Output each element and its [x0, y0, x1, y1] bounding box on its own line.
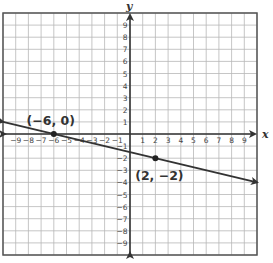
y-tick-label: −7	[116, 215, 127, 224]
y-tick-label: 6	[123, 57, 128, 66]
data-points: (−6, 0)(2, −2)	[27, 113, 184, 183]
data-point	[51, 131, 57, 137]
x-tick-label: −9	[10, 136, 21, 145]
y-tick-label: 1	[123, 118, 128, 127]
x-tick-label: 5	[191, 136, 196, 145]
coordinate-plane: −9−8−7−6−5−4−3−2−1123456789987654321−1−2…	[0, 0, 273, 263]
y-tick-label: −8	[116, 227, 127, 236]
point-label: (2, −2)	[135, 168, 183, 183]
y-tick-label: −4	[116, 178, 127, 187]
x-tick-label: 4	[178, 136, 183, 145]
y-tick-label: 8	[123, 33, 128, 42]
y-tick-label: 2	[123, 106, 128, 115]
y-tick-label: −2	[116, 154, 127, 163]
point-label: (−6, 0)	[27, 113, 75, 128]
y-tick-label: 3	[123, 94, 128, 103]
x-tick-label: −7	[36, 136, 47, 145]
x-axis-label: x	[261, 128, 269, 141]
x-tick-label: −2	[99, 136, 110, 145]
y-tick-label: 9	[123, 21, 128, 30]
y-tick-label: 5	[123, 70, 128, 79]
x-tick-label: 2	[153, 136, 158, 145]
y-tick-label: −5	[116, 191, 127, 200]
x-tick-label: 9	[242, 136, 247, 145]
x-tick-label: −6	[48, 136, 59, 145]
x-tick-label: −8	[23, 136, 34, 145]
y-tick-label: −6	[116, 203, 127, 212]
x-tick-label: 3	[166, 136, 171, 145]
x-tick-label: 7	[217, 136, 222, 145]
y-axis-label: y	[125, 0, 134, 13]
y-tick-label: 7	[123, 45, 128, 54]
y-tick-label: −9	[116, 239, 127, 248]
x-tick-label: 8	[229, 136, 234, 145]
x-tick-label: 1	[140, 136, 145, 145]
axes	[5, 15, 255, 253]
data-point	[152, 155, 158, 161]
y-tick-label: 4	[123, 82, 128, 91]
x-tick-label: 6	[204, 136, 209, 145]
y-tick-label: −3	[116, 166, 127, 175]
